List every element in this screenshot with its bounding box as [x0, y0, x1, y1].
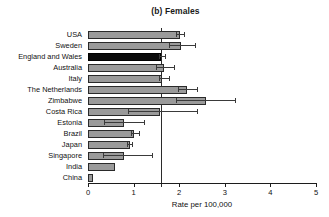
y-axis-label: The Netherlands [27, 85, 82, 94]
x-axis-tick-label: 3 [215, 188, 235, 197]
error-bar [159, 78, 169, 79]
error-bar-cap-low [128, 109, 129, 115]
y-axis-label: Zimbabwe [48, 96, 82, 105]
bar [88, 141, 130, 149]
error-bar-cap-low [159, 76, 160, 82]
y-axis-label: China [63, 173, 82, 182]
error-bar [176, 100, 235, 101]
error-bar-cap-high [174, 65, 175, 71]
bar-row [88, 139, 316, 150]
error-bar-cap-low [178, 87, 179, 93]
bar [88, 42, 181, 50]
error-bar-cap-low [176, 98, 177, 104]
error-bar-cap-low [159, 54, 160, 60]
y-axis-label: Singapore [48, 151, 82, 160]
x-axis-tick-label: 0 [78, 188, 98, 197]
bar [88, 130, 134, 138]
error-bar [128, 111, 197, 112]
bar-row [88, 117, 316, 128]
bar-row [88, 40, 316, 51]
bar [88, 174, 93, 182]
bar-row [88, 172, 316, 183]
error-bar-cap-low [131, 131, 132, 137]
bar [88, 75, 162, 83]
bar-row [88, 95, 316, 106]
bar-row [88, 51, 316, 62]
x-axis-tick-label: 2 [169, 188, 189, 197]
x-axis-title: Rate per 100,000 [88, 200, 316, 209]
x-axis-tick-label: 5 [306, 188, 326, 197]
bar-row [88, 106, 316, 117]
x-axis-tick-label: 1 [124, 188, 144, 197]
error-bar-cap-high [139, 131, 140, 137]
error-bar-cap-low [169, 43, 170, 49]
error-bar-cap-low [104, 120, 105, 126]
x-axis-tick [225, 183, 226, 187]
error-bar-cap-high [132, 142, 133, 148]
error-bar-cap-high [152, 153, 153, 159]
error-bar-cap-high [235, 98, 236, 104]
bar [88, 163, 115, 171]
y-axis-label: Italy [68, 74, 82, 83]
x-axis-tick [134, 183, 135, 187]
error-bar-cap-low [176, 32, 177, 38]
y-axis-label: England and Wales [18, 52, 82, 61]
bar [88, 86, 187, 94]
error-bar-cap-high [165, 54, 166, 60]
y-axis-label: Brazil [64, 129, 82, 138]
bar-row [88, 161, 316, 172]
error-bar [178, 89, 198, 90]
y-axis-label: Costa Rica [46, 107, 82, 116]
x-axis-line [88, 183, 317, 184]
bar-row [88, 84, 316, 95]
bar-row [88, 150, 316, 161]
x-axis-tick-label: 4 [260, 188, 280, 197]
bar-row [88, 62, 316, 73]
error-bar [156, 67, 173, 68]
error-bar [176, 34, 184, 35]
error-bar [131, 133, 139, 134]
x-axis-tick [316, 183, 317, 187]
y-axis-label: India [66, 162, 82, 171]
y-axis-label: Australia [53, 63, 82, 72]
x-axis-tick [88, 183, 89, 187]
error-bar [169, 45, 195, 46]
error-bar-cap-high [169, 76, 170, 82]
x-axis-tick [179, 183, 180, 187]
error-bar [103, 155, 152, 156]
x-axis-tick [270, 183, 271, 187]
bar [88, 64, 164, 72]
chart-figure: (b) Females USASwedenEngland and WalesAu… [0, 0, 329, 217]
error-bar-cap-low [156, 65, 157, 71]
y-axis-label: Sweden [55, 41, 82, 50]
bar [88, 53, 161, 61]
plot-area [88, 29, 316, 183]
error-bar-cap-high [197, 87, 198, 93]
error-bar-cap-high [195, 43, 196, 49]
error-bar [104, 122, 144, 123]
bar [88, 31, 180, 39]
bar-row [88, 128, 316, 139]
y-axis-label: USA [67, 30, 82, 39]
error-bar-cap-high [197, 109, 198, 115]
error-bar-cap-low [127, 142, 128, 148]
chart-title: (b) Females [0, 6, 329, 16]
error-bar-cap-high [144, 120, 145, 126]
bar-row [88, 29, 316, 40]
error-bar-cap-low [103, 153, 104, 159]
error-bar-cap-high [184, 32, 185, 38]
y-axis-category-labels: USASwedenEngland and WalesAustraliaItaly… [0, 29, 85, 183]
bar-row [88, 73, 316, 84]
y-axis-label: Estonia [57, 118, 82, 127]
y-axis-label: Japan [62, 140, 82, 149]
